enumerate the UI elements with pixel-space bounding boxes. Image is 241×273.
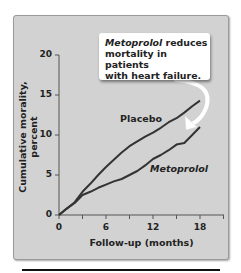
placebo-label: Placebo	[120, 113, 162, 124]
y-tick-20: 20	[36, 49, 52, 59]
x-tick-6: 6	[96, 222, 116, 232]
y-axis-ticks	[55, 55, 59, 215]
bottom-rule	[22, 269, 220, 271]
x-tick-0: 0	[49, 222, 69, 232]
x-tick-18: 18	[190, 222, 210, 232]
x-axis-ticks	[59, 215, 224, 219]
y-tick-10: 10	[36, 129, 52, 139]
y-tick-0: 0	[36, 209, 52, 219]
x-tick-12: 12	[143, 222, 163, 232]
callout-arrow-icon	[176, 80, 208, 124]
metoprolol-label: Metoprolol	[150, 163, 208, 174]
callout-line2: mortality in patients	[105, 48, 210, 70]
callout-line1: reduces	[162, 37, 207, 48]
y-tick-5: 5	[36, 169, 52, 179]
callout-line3: with heart failure.	[105, 70, 210, 81]
annotation-callout: Metoprolol reduces mortality in patients…	[99, 33, 210, 80]
x-axis-label: Follow-up (months)	[59, 237, 224, 248]
y-tick-15: 15	[36, 89, 52, 99]
callout-drug-name: Metoprolol	[105, 37, 162, 48]
